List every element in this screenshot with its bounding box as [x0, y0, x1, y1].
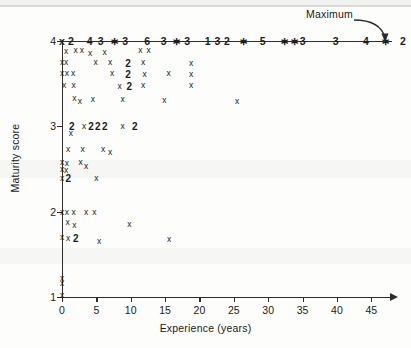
data-point-marker: x [120, 95, 124, 104]
data-point-count-label: 2 [127, 82, 132, 91]
data-point-count-label: 2 [125, 59, 130, 68]
data-point-marker: x [60, 233, 64, 242]
x-tick-label: 0 [49, 304, 75, 316]
data-point-marker: x [60, 68, 64, 77]
data-point-marker: x [110, 69, 114, 78]
x-tick [96, 297, 97, 302]
x-tick [234, 297, 235, 302]
data-point-marker: x [92, 207, 96, 216]
scan-artifact-band [0, 0, 411, 5]
data-point-marker: x [72, 221, 76, 230]
data-point-count-label: 3 [161, 37, 167, 46]
data-point-count-label: 5 [260, 37, 266, 46]
maximum-annotation-arrow-icon [352, 14, 400, 46]
data-point-count-label: 3 [98, 37, 104, 46]
x-tick [268, 297, 269, 302]
data-point-count-label: 2 [66, 173, 71, 182]
data-point-marker: x [62, 81, 66, 90]
data-point-marker: x [64, 47, 68, 56]
data-point-marker: x [167, 235, 171, 244]
y-tick-label: 2 [40, 206, 56, 218]
data-point-marker: x [142, 70, 146, 79]
data-point-marker: x [141, 80, 145, 89]
data-point-overplot-marker: ∗ [239, 37, 248, 46]
data-point-count-label: 2 [400, 37, 406, 46]
data-point-count-label: 4 [87, 37, 93, 46]
data-point-marker: x [82, 122, 86, 131]
y-tick-label: 4 [40, 35, 56, 47]
data-point-marker: x [65, 217, 69, 226]
x-tick-label: 40 [324, 304, 350, 316]
data-point-marker: x [65, 69, 69, 78]
data-point-marker: x [94, 58, 98, 67]
data-point-marker: x [78, 158, 82, 167]
data-point-marker: x [120, 122, 124, 131]
data-point-count-label: 2 [73, 234, 78, 243]
y-tick-label: 1 [40, 291, 56, 303]
data-point-count-label: 2 [224, 37, 230, 46]
data-point-marker: x [189, 70, 193, 79]
x-tick [337, 297, 338, 302]
y-axis-title: Maturity score [9, 110, 21, 206]
data-point-count-label: 3 [300, 37, 306, 46]
data-point-marker: x [80, 145, 84, 154]
x-tick-label: 45 [358, 304, 384, 316]
x-tick-label: 30 [255, 304, 281, 316]
data-point-count-label: 2 [125, 70, 130, 79]
data-point-marker: x [127, 219, 131, 228]
data-point-marker: x [102, 48, 106, 57]
data-point-marker: x [189, 59, 193, 68]
data-point-count-label: 2 [88, 122, 93, 131]
data-point-overplot-marker: ∗ [172, 37, 181, 46]
data-point-count-label: 3 [184, 37, 190, 46]
x-tick [371, 297, 372, 302]
data-point-marker: x [60, 207, 64, 216]
data-point-marker: x [94, 174, 98, 183]
data-point-marker: x [166, 69, 170, 78]
x-tick [199, 297, 200, 302]
scatter-plot-figure: 051015202530354045 1234 x243∗363∗3132∗5∗… [0, 0, 411, 348]
data-point-marker: x [72, 207, 76, 216]
data-point-marker: x [60, 173, 64, 182]
data-point-count-label: 3 [122, 37, 128, 46]
data-point-marker: x [64, 57, 68, 66]
data-point-marker: x [80, 45, 84, 54]
data-point-marker: x [60, 291, 64, 300]
x-tick-label: 25 [221, 304, 247, 316]
x-tick-label: 20 [186, 304, 212, 316]
x-tick-label: 10 [118, 304, 144, 316]
data-point-marker: x [235, 96, 239, 105]
data-point-marker: x [84, 161, 88, 170]
data-point-count-label: 3 [214, 37, 220, 46]
data-point-marker: x [66, 234, 70, 243]
scan-artifact-line [0, 5, 411, 7]
data-point-marker: x [59, 37, 65, 46]
data-point-count-label: 2 [102, 122, 107, 131]
data-point-marker: x [72, 80, 76, 89]
data-point-marker: x [66, 144, 70, 153]
x-tick [303, 297, 304, 302]
data-point-marker: x [97, 236, 101, 245]
x-axis-arrowhead [390, 293, 398, 301]
data-point-marker: x [101, 144, 105, 153]
data-point-marker: x [88, 48, 92, 57]
data-point-marker: x [141, 58, 145, 67]
data-point-marker: x [84, 207, 88, 216]
x-tick-label: 5 [83, 304, 109, 316]
data-point-count-label: 2 [132, 122, 137, 131]
x-tick [165, 297, 166, 302]
data-point-count-label: 3 [333, 37, 339, 46]
data-point-marker: x [108, 147, 112, 156]
data-point-count-label: 2 [95, 122, 100, 131]
data-point-marker: x [78, 96, 82, 105]
data-point-marker: x [118, 82, 122, 91]
data-point-marker: x [60, 279, 64, 288]
x-tick-label: 15 [152, 304, 178, 316]
y-tick [57, 126, 63, 127]
data-point-marker: x [65, 207, 69, 216]
maximum-annotation-label: Maximum [306, 8, 353, 20]
x-tick-label: 35 [290, 304, 316, 316]
data-point-marker: x [69, 129, 73, 138]
data-point-marker: x [138, 46, 142, 55]
data-point-marker: x [146, 46, 150, 55]
